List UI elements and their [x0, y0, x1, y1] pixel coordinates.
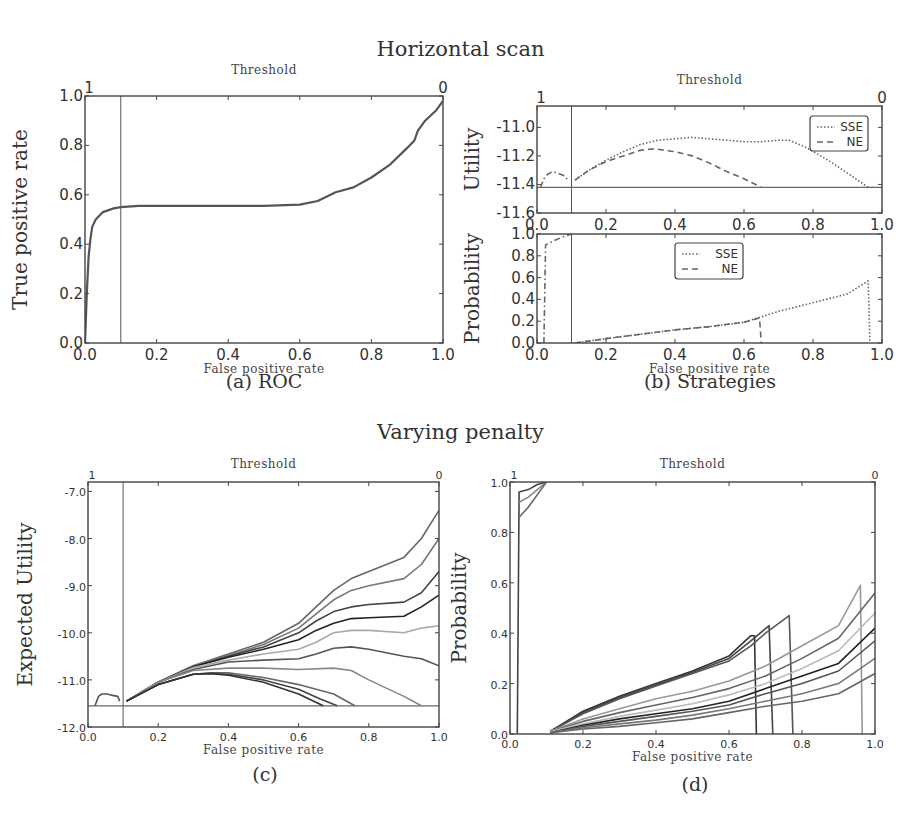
x-axis-label: False positive rate	[632, 750, 753, 764]
series-ROC	[85, 101, 443, 343]
y-tick-label: 1.0	[491, 477, 509, 490]
y-tick-label: -11.0	[58, 675, 86, 688]
x-tick-label: 0.8	[359, 346, 383, 364]
y-tick-label: -10.0	[58, 628, 86, 641]
chart-c: 0.00.20.40.60.81.0-12.0-11.0-10.0-9.0-8.…	[13, 457, 448, 757]
chart-b-bottom: 0.00.20.40.60.81.00.00.20.40.60.81.0Fals…	[460, 225, 894, 376]
x-tick-label: 0.2	[594, 216, 618, 234]
series-p6	[127, 647, 439, 701]
series-p1	[127, 510, 439, 701]
x-tick-label: 0.8	[801, 216, 825, 234]
series-p7	[127, 668, 422, 706]
x-tick-label: 1.0	[870, 216, 894, 234]
threshold-start-label: 1	[84, 79, 94, 97]
legend: SSENE	[675, 243, 743, 279]
chart-b-top: 0.00.20.40.60.81.0-11.6-11.4-11.2-11.010…	[460, 73, 894, 234]
top-axis-title: Threshold	[677, 73, 743, 87]
y-tick-label: 0.0	[59, 334, 83, 352]
plot-frame	[510, 482, 875, 734]
y-axis-label: Utility	[460, 127, 484, 191]
series-early	[541, 172, 569, 188]
legend-entry-ne: NE	[721, 262, 738, 276]
legend-entry-sse: SSE	[840, 120, 863, 134]
y-tick-label: 0.2	[59, 285, 83, 303]
threshold-end-label: 0	[877, 89, 887, 107]
y-tick-label: 0.0	[511, 334, 535, 352]
series-group	[85, 96, 443, 343]
series-p10	[127, 674, 324, 706]
y-tick-label: 0.6	[511, 269, 535, 287]
y-axis-label: Probability	[460, 232, 484, 344]
top-axis-title: Threshold	[231, 63, 297, 77]
y-axis-label: True positive rate	[8, 129, 32, 310]
series-q4	[550, 585, 862, 734]
series-group	[517, 482, 875, 734]
y-tick-label: 0.6	[59, 186, 83, 204]
chart-d: 0.00.20.40.60.81.00.00.20.40.60.81.010Th…	[447, 457, 884, 764]
x-axis-label: False positive rate	[649, 362, 770, 376]
x-tick-label: 0.8	[360, 731, 378, 744]
series-NE	[575, 149, 761, 188]
series-early	[95, 694, 120, 706]
y-tick-label: -11.0	[496, 118, 535, 136]
y-tick-label: 0.6	[491, 578, 509, 591]
y-tick-label: 0.8	[491, 527, 509, 540]
legend-entry-ne: NE	[846, 135, 863, 149]
x-axis-label: False positive rate	[203, 362, 324, 376]
plot-frame	[85, 96, 443, 343]
threshold-start-label: 1	[536, 89, 546, 107]
series-early-a	[517, 482, 546, 734]
series-group	[88, 482, 439, 727]
chart-a: 0.00.20.40.60.81.00.00.20.40.60.81.010Th…	[8, 63, 455, 376]
y-tick-label: -7.0	[65, 486, 86, 499]
threshold-start-label: 1	[511, 469, 518, 482]
threshold-end-label: 0	[436, 469, 443, 482]
x-tick-label: 1.0	[866, 738, 884, 751]
y-tick-label: -11.4	[496, 175, 535, 193]
y-tick-label: -9.0	[65, 581, 86, 594]
series-p5	[127, 626, 439, 701]
x-tick-label: 1.0	[870, 346, 894, 364]
x-tick-label: 0.8	[801, 346, 825, 364]
y-tick-label: 0.0	[491, 729, 509, 742]
series-SSE	[575, 281, 870, 343]
x-tick-label: 0.2	[145, 346, 169, 364]
x-tick-label: 1.0	[430, 731, 448, 744]
y-tick-label: -11.2	[496, 147, 535, 165]
y-tick-label: 0.4	[59, 235, 83, 253]
x-tick-label: 0.2	[149, 731, 167, 744]
y-tick-label: -11.6	[496, 204, 535, 222]
y-axis-label: Probability	[447, 552, 471, 664]
x-tick-label: 0.2	[574, 738, 592, 751]
top-axis-title: Threshold	[660, 457, 726, 471]
figure-canvas: 0.00.20.40.60.81.00.00.20.40.60.81.010Th…	[0, 0, 921, 825]
threshold-start-label: 1	[89, 469, 96, 482]
x-tick-label: 0.2	[594, 346, 618, 364]
series-early-b	[519, 482, 546, 502]
y-tick-label: 0.4	[491, 628, 509, 641]
x-tick-label: 0.8	[793, 738, 811, 751]
y-tick-label: 0.2	[491, 679, 509, 692]
x-axis-label: False positive rate	[203, 743, 324, 757]
series-p9	[127, 673, 338, 706]
series-early	[544, 234, 572, 343]
y-tick-label: -8.0	[65, 534, 86, 547]
top-axis-title: Threshold	[231, 457, 297, 471]
y-tick-label: 0.2	[511, 312, 535, 330]
legend-entry-sse: SSE	[715, 247, 738, 261]
threshold-end-label: 0	[872, 469, 879, 482]
plot-frame	[88, 482, 439, 727]
y-tick-label: 1.0	[59, 87, 83, 105]
series-q2	[550, 626, 773, 734]
y-tick-label: 1.0	[511, 225, 535, 243]
x-tick-label: 0.6	[732, 216, 756, 234]
y-axis-label: Expected Utility	[13, 522, 37, 687]
threshold-end-label: 0	[438, 79, 448, 97]
y-tick-label: 0.8	[59, 136, 83, 154]
x-tick-label: 1.0	[431, 346, 455, 364]
legend: SSENE	[810, 116, 868, 151]
y-tick-label: 0.8	[511, 247, 535, 265]
y-tick-label: 0.4	[511, 290, 535, 308]
y-tick-label: -12.0	[58, 722, 86, 735]
x-tick-label: 0.4	[663, 216, 687, 234]
